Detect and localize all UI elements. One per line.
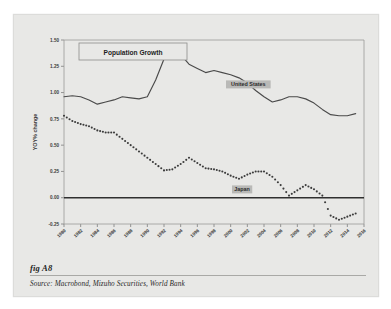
figure-page: 1.501.251.000.750.500.250.00-0.25 198019… bbox=[0, 0, 391, 309]
data-point bbox=[219, 170, 221, 172]
data-point bbox=[96, 129, 98, 131]
data-point bbox=[141, 153, 143, 155]
source-attribution: Source: Macrobond, Mizuho Securities, Wo… bbox=[30, 280, 366, 288]
y-tick-label: 0.50 bbox=[50, 143, 59, 148]
chart-plot-area: 1.501.251.000.750.500.250.00-0.25 198019… bbox=[23, 23, 371, 255]
data-point bbox=[291, 193, 293, 195]
data-point bbox=[207, 168, 209, 170]
data-point bbox=[349, 215, 351, 217]
data-point bbox=[260, 170, 262, 172]
data-point bbox=[302, 186, 304, 188]
data-point bbox=[121, 138, 123, 140]
series-label-united-states: United States bbox=[231, 81, 265, 87]
figure-panel: 1.501.251.000.750.500.250.00-0.25 198019… bbox=[13, 14, 379, 297]
data-point bbox=[307, 185, 309, 187]
data-point bbox=[157, 165, 159, 167]
data-point bbox=[202, 165, 204, 167]
data-point bbox=[171, 168, 173, 170]
data-point bbox=[205, 167, 207, 169]
caption-divider bbox=[30, 275, 366, 276]
data-point bbox=[230, 175, 232, 177]
data-point bbox=[319, 192, 321, 194]
data-point bbox=[88, 125, 90, 127]
data-point bbox=[238, 178, 240, 180]
data-point bbox=[138, 150, 140, 152]
data-point bbox=[280, 184, 282, 186]
data-point bbox=[224, 172, 226, 174]
data-point bbox=[294, 191, 296, 193]
data-point bbox=[69, 118, 71, 120]
data-point bbox=[244, 175, 246, 177]
y-tick-label: 0.25 bbox=[50, 169, 59, 174]
data-point bbox=[221, 170, 223, 172]
data-point bbox=[182, 161, 184, 163]
data-point bbox=[180, 163, 182, 165]
data-point bbox=[94, 128, 96, 130]
data-point bbox=[185, 159, 187, 161]
data-point bbox=[91, 127, 93, 129]
data-point bbox=[330, 215, 332, 217]
data-point bbox=[196, 162, 198, 164]
data-point bbox=[269, 174, 271, 176]
data-point bbox=[77, 122, 79, 124]
data-point bbox=[257, 170, 259, 172]
data-point bbox=[296, 189, 298, 191]
data-point bbox=[82, 124, 84, 126]
data-point bbox=[271, 176, 273, 178]
y-tick-label: -0.25 bbox=[49, 222, 60, 227]
data-point bbox=[107, 131, 109, 133]
chart-background bbox=[23, 23, 371, 255]
data-point bbox=[130, 144, 132, 146]
data-point bbox=[160, 167, 162, 169]
data-point bbox=[346, 216, 348, 218]
data-point bbox=[163, 169, 165, 171]
data-point bbox=[263, 170, 265, 172]
data-point bbox=[155, 163, 157, 165]
data-point bbox=[216, 169, 218, 171]
data-point bbox=[105, 131, 107, 133]
chart-title-text: Population Growth bbox=[104, 49, 163, 57]
data-point bbox=[132, 146, 134, 148]
data-point bbox=[341, 218, 343, 220]
data-point bbox=[119, 136, 121, 138]
y-tick-label: 1.50 bbox=[50, 38, 59, 43]
data-point bbox=[210, 168, 212, 170]
data-point bbox=[152, 161, 154, 163]
y-tick-label: 1.25 bbox=[50, 64, 59, 69]
data-point bbox=[335, 217, 337, 219]
data-point bbox=[316, 190, 318, 192]
data-point bbox=[344, 217, 346, 219]
data-point bbox=[144, 155, 146, 157]
data-point bbox=[305, 184, 307, 186]
y-axis-label: YOY% change bbox=[32, 114, 38, 151]
data-point bbox=[124, 140, 126, 142]
data-point bbox=[99, 130, 101, 132]
data-point bbox=[332, 216, 334, 218]
data-point bbox=[285, 191, 287, 193]
data-point bbox=[127, 142, 129, 144]
data-point bbox=[191, 158, 193, 160]
data-point bbox=[188, 157, 190, 159]
data-point bbox=[277, 181, 279, 183]
data-point bbox=[169, 169, 171, 171]
data-point bbox=[246, 174, 248, 176]
data-point bbox=[74, 121, 76, 123]
data-point bbox=[166, 169, 168, 171]
data-point bbox=[199, 164, 201, 166]
data-point bbox=[63, 115, 65, 117]
data-point bbox=[213, 168, 215, 170]
data-point bbox=[177, 165, 179, 167]
data-point bbox=[288, 195, 290, 197]
data-point bbox=[241, 176, 243, 178]
y-tick-label: 1.00 bbox=[50, 90, 59, 95]
data-point bbox=[338, 219, 340, 221]
data-point bbox=[110, 131, 112, 133]
data-point bbox=[310, 187, 312, 189]
data-point bbox=[299, 188, 301, 190]
data-point bbox=[113, 131, 115, 133]
population-growth-line-chart: 1.501.251.000.750.500.250.00-0.25 198019… bbox=[23, 23, 371, 255]
data-point bbox=[327, 208, 329, 210]
data-point bbox=[274, 178, 276, 180]
y-tick-label: 0.75 bbox=[50, 117, 59, 122]
data-point bbox=[85, 124, 87, 126]
